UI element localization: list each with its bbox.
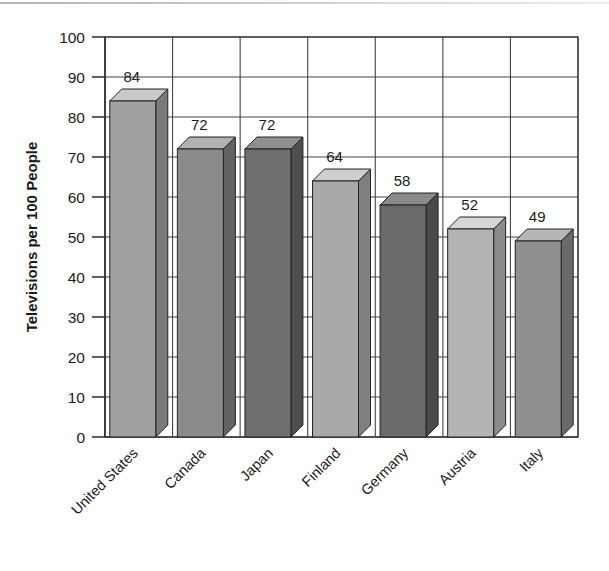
x-axis-label-4: Germany [358, 444, 412, 498]
y-axis-tick-labels: 1009080706050403020100 [59, 29, 85, 446]
bar-chart: 1009080706050403020100 84727264585249 Un… [0, 0, 609, 571]
x-axis-label-5: Austria [436, 444, 480, 488]
y-tick-label-60: 60 [68, 189, 86, 206]
bar-side-face [426, 193, 438, 437]
bar-6 [515, 229, 573, 437]
x-axis-label-2: Japan [237, 445, 276, 484]
bar-side-face [156, 89, 168, 437]
bar-front-face [245, 149, 291, 437]
bar-front-face [110, 101, 156, 437]
y-tick-label-90: 90 [68, 69, 86, 86]
bar-value-label-5: 52 [461, 196, 478, 213]
bar-2 [245, 137, 303, 437]
bar-front-face [313, 181, 359, 437]
bar-side-face [291, 137, 303, 437]
x-axis-label-0: United States [68, 445, 141, 518]
bar-front-face [177, 149, 223, 437]
bar-value-label-4: 58 [394, 172, 411, 189]
bar-0 [110, 89, 168, 437]
bar-side-face [223, 137, 235, 437]
bar-value-label-3: 64 [326, 148, 343, 165]
y-tick-label-80: 80 [68, 109, 86, 126]
bar-1 [177, 137, 235, 437]
x-axis-category-labels: United StatesCanadaJapanFinlandGermanyAu… [68, 444, 547, 518]
y-tick-label-30: 30 [68, 309, 86, 326]
y-tick-label-0: 0 [76, 429, 85, 446]
bar-3 [313, 169, 371, 437]
y-tick-label-40: 40 [68, 269, 86, 286]
y-axis-title: Televisions per 100 People [23, 142, 40, 333]
y-axis-tick-marks [92, 37, 105, 437]
y-tick-label-20: 20 [68, 349, 86, 366]
bar-side-face [494, 217, 506, 437]
chart-page: 1009080706050403020100 84727264585249 Un… [0, 0, 609, 571]
bar-front-face [448, 229, 494, 437]
bar-side-face [359, 169, 371, 437]
bar-4 [380, 193, 438, 437]
bar-front-face [380, 205, 426, 437]
bar-front-face [515, 241, 561, 437]
bar-value-label-0: 84 [123, 68, 140, 85]
x-axis-label-3: Finland [299, 445, 344, 490]
y-tick-label-100: 100 [59, 29, 85, 46]
x-axis-label-1: Canada [161, 444, 209, 492]
bar-side-face [561, 229, 573, 437]
bar-5 [448, 217, 506, 437]
y-tick-label-50: 50 [68, 229, 86, 246]
bar-value-label-6: 49 [529, 208, 546, 225]
bar-value-label-2: 72 [259, 116, 276, 133]
y-tick-label-70: 70 [68, 149, 86, 166]
x-axis-label-6: Italy [516, 444, 547, 475]
bar-value-label-1: 72 [191, 116, 208, 133]
y-tick-label-10: 10 [68, 389, 86, 406]
